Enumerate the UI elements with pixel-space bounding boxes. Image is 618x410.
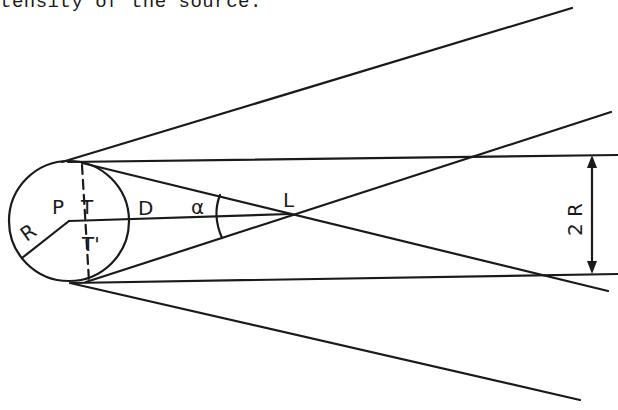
optics-diagram: P T T' R D α L 2 R — [0, 0, 618, 410]
label-t: T — [80, 195, 94, 219]
outer-ray-top — [62, 8, 572, 162]
label-t-prime: T' — [81, 232, 100, 256]
outer-ray-bottom — [70, 283, 580, 400]
arrowhead-up-icon — [587, 155, 597, 168]
crossing-ray-2 — [86, 112, 611, 282]
label-alpha: α — [191, 195, 204, 219]
parallel-ray-top — [68, 155, 618, 162]
label-l: L — [283, 188, 295, 212]
arrowhead-down-icon — [587, 261, 597, 274]
label-2r: 2 R — [563, 203, 587, 236]
parallel-ray-bottom — [72, 274, 618, 283]
dashed-chord — [82, 165, 89, 281]
label-p: P — [52, 195, 64, 219]
axis-line — [69, 214, 290, 221]
label-r: R — [16, 219, 41, 247]
crossing-ray-1 — [82, 163, 608, 291]
label-d: D — [138, 196, 153, 220]
